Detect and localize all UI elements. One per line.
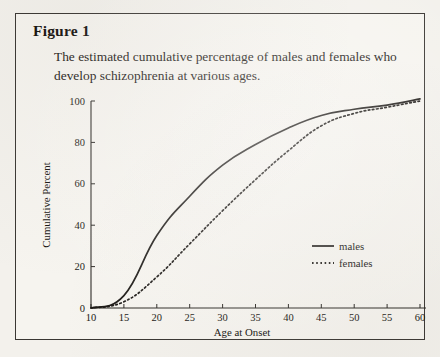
y-axis: 020406080100 bbox=[69, 96, 95, 314]
x-tick-label: 50 bbox=[349, 312, 360, 323]
x-tick-label: 35 bbox=[250, 312, 261, 323]
y-tick-label: 20 bbox=[75, 261, 86, 272]
x-tick-group: 1015202530354045505560 bbox=[86, 304, 426, 323]
series-line-males bbox=[91, 99, 420, 308]
legend-label-males: males bbox=[339, 240, 364, 252]
y-tick-label: 60 bbox=[75, 178, 86, 189]
figure-box: Figure 1 The estimated cumulative percen… bbox=[15, 13, 425, 340]
x-tick-label: 10 bbox=[86, 312, 97, 323]
y-axis-title: Cumulative Percent bbox=[40, 162, 52, 247]
y-tick-label: 40 bbox=[75, 220, 86, 231]
x-axis: 1015202530354045505560 bbox=[86, 304, 426, 323]
y-tick-label: 80 bbox=[75, 137, 86, 148]
x-axis-title: Age at Onset bbox=[214, 326, 270, 338]
x-tick-label: 55 bbox=[382, 312, 393, 323]
x-tick-label: 20 bbox=[152, 312, 163, 323]
series-line-females bbox=[91, 101, 420, 308]
x-tick-label: 60 bbox=[415, 312, 426, 323]
x-tick-label: 30 bbox=[217, 312, 228, 323]
x-tick-label: 25 bbox=[184, 312, 195, 323]
y-tick-label: 100 bbox=[69, 96, 85, 107]
x-tick-label: 45 bbox=[316, 312, 327, 323]
chart-legend: males females bbox=[312, 240, 373, 269]
legend-label-females: females bbox=[339, 257, 373, 269]
scanned-page: Figure 1 The estimated cumulative percen… bbox=[0, 0, 440, 357]
line-chart: 020406080100 1015202530354045505560 Cumu… bbox=[16, 14, 426, 341]
x-tick-label: 40 bbox=[283, 312, 294, 323]
chart-area: 020406080100 1015202530354045505560 Cumu… bbox=[16, 14, 426, 341]
x-tick-label: 15 bbox=[119, 312, 129, 323]
y-tick-label: 0 bbox=[80, 303, 85, 314]
